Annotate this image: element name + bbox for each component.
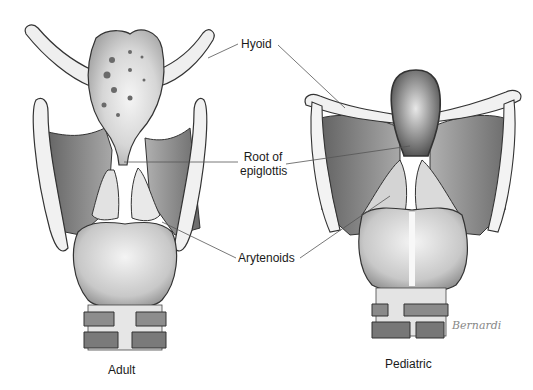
adult-hyoid-right-horn bbox=[158, 30, 214, 86]
adult-hyoid-left-horn bbox=[25, 25, 92, 86]
adult-cricoid-cartilage bbox=[73, 222, 176, 309]
label-hyoid: Hyoid bbox=[241, 37, 272, 51]
label-arytenoids: Arytenoids bbox=[238, 251, 295, 265]
pediatric-trachea bbox=[372, 288, 448, 338]
caption-adult: Adult bbox=[108, 363, 135, 377]
label-root-line2: epiglottis bbox=[240, 164, 286, 178]
adult-larynx bbox=[25, 25, 214, 350]
label-root-line1: Root of bbox=[240, 150, 286, 164]
artist-signature: Bernardi bbox=[452, 319, 501, 332]
label-root-of-epiglottis: Root of epiglottis bbox=[240, 150, 286, 178]
caption-pediatric: Pediatric bbox=[385, 357, 432, 371]
adult-trachea bbox=[84, 305, 166, 350]
pediatric-larynx bbox=[305, 70, 521, 338]
pediatric-epiglottis bbox=[391, 70, 440, 156]
